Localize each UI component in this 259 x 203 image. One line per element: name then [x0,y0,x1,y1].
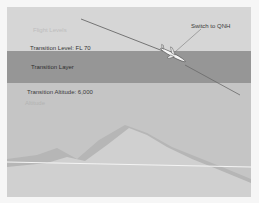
flight-path-upper [81,19,163,51]
transition-level-label: Transition Level: FL 70 [30,45,91,51]
altitude-label: Altitude [25,100,45,106]
switch-qnh-callout-line [175,29,201,52]
transition-altitude-label: Transition Altitude: 6,000 [27,89,93,95]
diagram-frame: Flight Levels Transition Level: FL 70 Tr… [7,7,251,197]
transition-diagram: Flight Levels Transition Level: FL 70 Tr… [0,0,259,203]
flight-levels-label: Flight Levels [33,27,67,33]
airplane-icon [157,43,188,66]
flight-path-lower [185,65,240,95]
switch-to-qnh-label: Switch to QNH [191,23,230,29]
transition-layer-label: Transition Layer [31,64,74,70]
